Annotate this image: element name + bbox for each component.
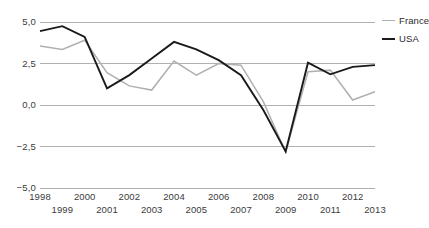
- x-tick-label: 2008: [253, 191, 275, 202]
- legend-swatch-usa-icon: [382, 38, 395, 40]
- x-tick-label: 2002: [119, 191, 141, 202]
- legend-item-france[interactable]: France: [382, 13, 428, 28]
- chart-legend: France USA: [382, 13, 428, 49]
- x-tick-label: 2010: [297, 191, 319, 202]
- legend-item-usa[interactable]: USA: [382, 31, 428, 46]
- series-line-usa: [40, 26, 375, 151]
- x-tick-label: 2012: [342, 191, 364, 202]
- plot-area: [40, 22, 375, 188]
- x-axis: 1998199920002001200220032004200520062007…: [40, 188, 375, 228]
- x-tick-label: 2011: [320, 204, 341, 215]
- legend-label-usa: USA: [399, 33, 419, 44]
- x-tick-label: 2003: [141, 204, 163, 215]
- x-tick-label: 2000: [74, 191, 96, 202]
- x-tick-label: 2004: [163, 191, 185, 202]
- y-tick-label: −2,5: [2, 142, 36, 152]
- x-tick-label: 2006: [208, 191, 230, 202]
- y-tick-label: 5,0: [2, 17, 36, 27]
- x-tick-label: 2005: [186, 204, 208, 215]
- y-tick-label: 2,5: [2, 59, 36, 69]
- x-tick-label: 1999: [52, 204, 74, 215]
- x-tick-label: 2007: [230, 204, 252, 215]
- x-tick-label: 1998: [29, 191, 51, 202]
- legend-swatch-france-icon: [382, 20, 395, 21]
- series-lines: [40, 22, 375, 188]
- series-line-france: [40, 40, 375, 152]
- legend-label-france: France: [399, 15, 429, 26]
- x-tick-label: 2009: [275, 204, 297, 215]
- x-tick-label: 2001: [96, 204, 118, 215]
- x-tick-label: 2013: [364, 204, 386, 215]
- y-tick-label: 0,0: [2, 100, 36, 110]
